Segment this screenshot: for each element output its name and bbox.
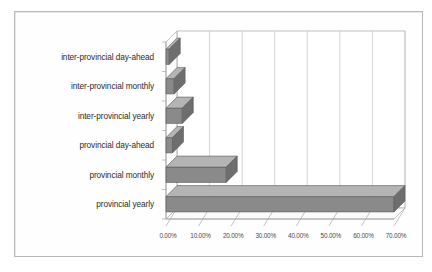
bar-front-face	[166, 138, 173, 153]
x-tick-label-70: 70.00%	[386, 232, 406, 239]
x-tick-label-30: 30.00%	[255, 232, 275, 239]
x-tick-label-0: 0.00%	[159, 232, 176, 239]
category-label-1: inter-provincial monthly	[6, 81, 154, 91]
category-axis-labels: inter-provincial day-aheadinter-provinci…	[6, 32, 154, 219]
x-tick-label-10: 10.00%	[190, 232, 210, 239]
x-tick-label-20: 20.00%	[223, 232, 243, 239]
category-label-0: inter-provincial day-ahead	[6, 52, 154, 62]
bar-front-face	[166, 79, 174, 94]
category-label-2: inter-provincial yearly	[6, 111, 154, 121]
bar-5	[166, 186, 405, 212]
category-label-5: provincial yearly	[6, 199, 154, 209]
x-tick-label-40: 40.00%	[288, 232, 308, 239]
bar-front-face	[166, 197, 394, 212]
bar-4	[166, 156, 237, 182]
bar-front-face	[166, 108, 182, 123]
category-label-3: provincial day-ahead	[6, 140, 154, 150]
x-tick-label-50: 50.00%	[321, 232, 341, 239]
value-axis-tick-labels: 0.00%10.00%20.00%30.00%40.00%50.00%60.00…	[0, 232, 432, 246]
bar-front-face	[166, 167, 226, 182]
bar-top-face	[166, 186, 405, 197]
bar-front-face	[166, 49, 169, 64]
x-tick-label-60: 60.00%	[353, 232, 373, 239]
bar-top-face	[166, 156, 237, 167]
category-label-4: provincial monthly	[6, 170, 154, 180]
